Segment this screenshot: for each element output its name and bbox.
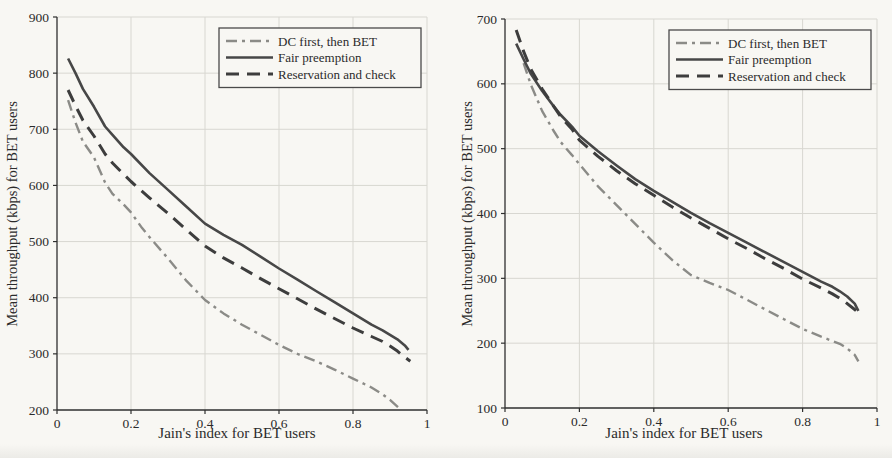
legend-label: Fair preemption: [278, 50, 362, 65]
legend-label: Reservation and check: [728, 69, 846, 84]
y-tick-label: 900: [29, 10, 50, 25]
y-tick-label: 700: [477, 12, 498, 27]
y-tick-label: 800: [29, 66, 50, 81]
x-axis-label: Jain's index for BET users: [446, 425, 892, 442]
legend: DC first, then BETFair preemptionReserva…: [669, 30, 871, 90]
y-axis-label: Mean throughput (kbps) for BET users: [4, 101, 21, 327]
series-line-reservation-and-check: [68, 90, 410, 361]
y-tick-label: 200: [29, 403, 50, 418]
x-axis-label: Jain's index for BET users: [0, 425, 446, 442]
y-axis-label: Mean throughput (kbps) for BET users: [459, 101, 476, 327]
y-tick-label: 600: [477, 76, 498, 91]
y-tick-label: 300: [477, 271, 498, 286]
y-tick-label: 200: [477, 336, 498, 351]
y-tick-label: 400: [29, 290, 50, 305]
chart-right-svg: 00.20.40.60.81100200300400500600700DC fi…: [446, 0, 892, 458]
y-tick-label: 500: [477, 141, 498, 156]
legend: DC first, then BETFair preemptionReserva…: [219, 28, 421, 88]
series-line-fair-preemption: [68, 59, 408, 350]
legend-label: DC first, then BET: [278, 34, 377, 49]
chart-left-svg: 00.20.40.60.81200300400500600700800900DC…: [0, 0, 446, 458]
legend-label: DC first, then BET: [728, 36, 827, 51]
y-tick-label: 100: [477, 401, 498, 416]
figure: 00.20.40.60.81200300400500600700800900DC…: [0, 0, 892, 458]
chart-right: 00.20.40.60.81100200300400500600700DC fi…: [446, 0, 892, 458]
y-tick-label: 700: [29, 122, 50, 137]
y-tick-label: 500: [29, 234, 50, 249]
legend-label: Reservation and check: [278, 67, 396, 82]
y-tick-label: 600: [29, 178, 50, 193]
legend-label: Fair preemption: [728, 52, 812, 67]
chart-left: 00.20.40.60.81200300400500600700800900DC…: [0, 0, 446, 458]
series-line-dc-first-then-bet: [68, 100, 401, 410]
y-tick-label: 300: [29, 346, 50, 361]
y-tick-label: 400: [477, 206, 498, 221]
